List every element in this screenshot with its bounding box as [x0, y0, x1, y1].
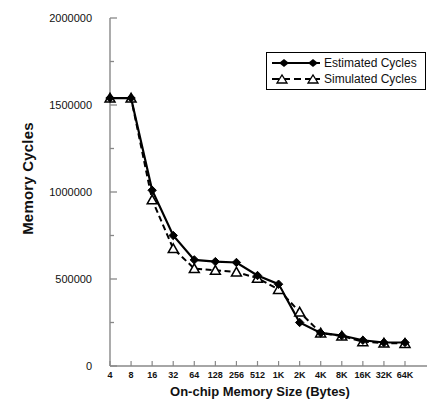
legend-key-filled-diamond-icon	[270, 56, 322, 70]
legend-label-simulated: Simulated Cycles	[324, 72, 417, 86]
legend-item-simulated: Simulated Cycles	[270, 71, 422, 87]
memory-cycles-chart: 0500000100000015000002000000 Memory Cycl…	[0, 0, 440, 409]
legend-label-estimated: Estimated Cycles	[324, 56, 417, 70]
legend-key-open-triangle-icon	[270, 72, 322, 86]
legend-item-estimated: Estimated Cycles	[270, 55, 422, 71]
chart-legend: Estimated Cycles Simulated Cycles	[266, 52, 426, 90]
